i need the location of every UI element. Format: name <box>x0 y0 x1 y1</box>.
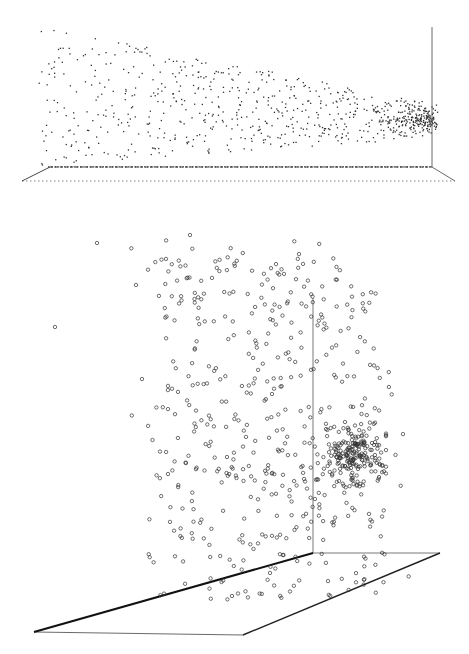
data-point <box>132 95 133 96</box>
data-point <box>274 567 277 570</box>
data-point <box>417 109 418 110</box>
data-point <box>383 137 384 138</box>
data-point <box>131 144 132 145</box>
data-point <box>62 136 63 137</box>
data-point <box>306 279 309 282</box>
data-point <box>404 120 405 121</box>
data-point <box>270 493 273 496</box>
data-point <box>231 128 232 129</box>
data-point <box>286 453 289 456</box>
data-point <box>124 155 125 156</box>
data-point <box>99 83 100 84</box>
data-point <box>177 302 180 305</box>
data-point <box>344 91 345 92</box>
data-point <box>373 407 376 410</box>
data-point <box>216 121 217 122</box>
data-point <box>406 135 407 136</box>
data-point <box>176 61 177 62</box>
data-point <box>305 110 306 111</box>
data-point <box>288 126 289 127</box>
data-point <box>400 112 401 113</box>
data-point <box>247 331 250 334</box>
data-point <box>179 72 180 73</box>
data-point <box>166 472 169 475</box>
data-point <box>422 101 423 102</box>
data-point <box>260 296 263 299</box>
data-point <box>261 133 262 134</box>
data-point <box>290 119 291 120</box>
data-point <box>382 509 385 512</box>
data-point <box>273 79 274 80</box>
data-point <box>309 416 312 419</box>
data-point <box>322 467 325 470</box>
data-point <box>328 87 329 88</box>
data-point <box>360 412 363 415</box>
data-point <box>422 124 423 125</box>
data-point <box>322 81 323 82</box>
data-point <box>347 514 350 517</box>
data-point <box>191 247 194 250</box>
floor-projection-point <box>333 166 335 167</box>
data-point <box>239 90 240 91</box>
data-point <box>139 51 140 52</box>
data-point <box>209 577 212 580</box>
data-point <box>238 74 239 75</box>
data-point <box>283 442 286 445</box>
data-point <box>387 385 390 388</box>
data-point <box>333 442 336 445</box>
data-point <box>384 111 385 112</box>
data-point <box>66 144 67 145</box>
floor-projection-point <box>74 166 76 167</box>
data-point <box>350 104 351 105</box>
data-point <box>428 111 429 112</box>
data-point <box>95 70 96 71</box>
data-point <box>110 63 111 64</box>
data-point <box>269 137 270 138</box>
data-point <box>122 159 123 160</box>
data-point <box>223 315 226 318</box>
data-point <box>232 87 233 88</box>
data-point <box>356 350 359 353</box>
data-point <box>169 59 170 60</box>
data-point <box>229 91 230 92</box>
data-point <box>246 292 249 295</box>
data-point <box>113 113 114 114</box>
data-point <box>270 392 273 395</box>
data-point <box>336 101 337 102</box>
data-point <box>303 129 304 130</box>
data-point <box>345 113 346 114</box>
data-point <box>369 126 370 127</box>
data-point <box>429 117 430 118</box>
data-point <box>252 126 253 127</box>
data-point <box>379 121 380 122</box>
data-point <box>402 121 403 122</box>
data-point <box>271 309 274 312</box>
data-point <box>125 93 126 94</box>
data-point <box>200 279 203 282</box>
data-point <box>259 126 260 127</box>
data-point <box>343 491 346 494</box>
data-point <box>204 119 205 120</box>
data-point <box>275 514 278 517</box>
data-point <box>159 128 160 129</box>
data-point <box>249 392 252 395</box>
data-point <box>381 130 382 131</box>
data-point <box>66 115 67 116</box>
data-point <box>247 384 250 387</box>
data-point <box>54 100 55 101</box>
data-point <box>335 305 338 308</box>
data-point <box>42 131 43 132</box>
data-point <box>272 95 273 96</box>
data-point <box>391 106 392 107</box>
data-point <box>267 136 268 137</box>
axis-line <box>432 167 455 181</box>
data-point <box>245 423 248 426</box>
data-point <box>415 114 416 115</box>
data-point <box>402 125 403 126</box>
data-point <box>301 128 302 129</box>
data-point <box>258 119 259 120</box>
data-point <box>359 130 360 131</box>
data-point <box>104 152 105 153</box>
data-point <box>399 126 400 127</box>
data-point <box>418 115 419 116</box>
